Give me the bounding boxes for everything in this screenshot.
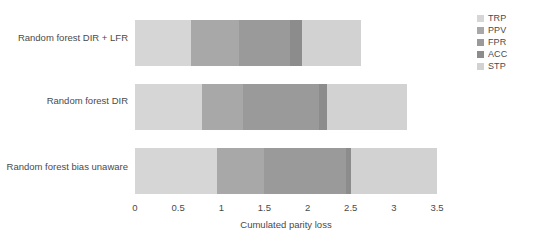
- y-axis-label-1: Random forest DIR: [0, 95, 128, 106]
- x-tick-label-3: 1.5: [258, 202, 271, 213]
- bar-segment-stp: [351, 148, 437, 194]
- legend-swatch-icon-acc: [477, 51, 484, 58]
- x-axis-title: Cumulated parity loss: [135, 219, 437, 230]
- bar-row-2: [135, 148, 437, 194]
- legend-swatch-icon-fpr: [477, 39, 484, 46]
- bar-row-0: [135, 20, 437, 66]
- bar-segment-trp: [135, 20, 191, 66]
- legend-label: FPR: [488, 37, 506, 48]
- legend-item-trp[interactable]: TRP: [477, 13, 507, 24]
- y-axis-label-0: Random forest DIR + LFR: [0, 32, 128, 43]
- x-axis: 00.511.522.533.5: [135, 202, 437, 216]
- plot-area: [135, 14, 437, 200]
- bar-segment-trp: [135, 148, 217, 194]
- x-tick-label-1: 0.5: [172, 202, 185, 213]
- stacked-bar-1: [135, 84, 407, 130]
- bar-segment-stp: [302, 20, 362, 66]
- legend-swatch-icon-trp: [477, 15, 484, 22]
- x-tick-label-6: 3: [391, 202, 396, 213]
- legend-label: TRP: [488, 13, 506, 24]
- bar-segment-acc: [290, 20, 301, 66]
- x-tick-label-7: 3.5: [430, 202, 443, 213]
- bar-row-1: [135, 84, 437, 130]
- legend-swatch-icon-ppv: [477, 27, 484, 34]
- legend: TRPPPVFPRACCSTP: [477, 13, 507, 72]
- legend-swatch-icon-stp: [477, 63, 484, 70]
- x-tick-label-4: 2: [305, 202, 310, 213]
- legend-item-stp[interactable]: STP: [477, 61, 507, 72]
- bar-segment-fpr: [239, 20, 291, 66]
- bar-segment-ppv: [217, 148, 264, 194]
- y-axis-label-2: Random forest bias unaware: [0, 161, 128, 172]
- legend-label: PPV: [488, 25, 506, 36]
- bar-segment-acc: [319, 84, 327, 130]
- legend-label: ACC: [488, 49, 507, 60]
- stacked-bar-0: [135, 20, 361, 66]
- bar-segment-fpr: [243, 84, 319, 130]
- legend-item-acc[interactable]: ACC: [477, 49, 507, 60]
- legend-item-fpr[interactable]: FPR: [477, 37, 507, 48]
- stacked-bar-2: [135, 148, 437, 194]
- bar-segment-ppv: [191, 20, 238, 66]
- legend-item-ppv[interactable]: PPV: [477, 25, 507, 36]
- bar-segment-trp: [135, 84, 202, 130]
- x-tick-label-0: 0: [132, 202, 137, 213]
- bar-segment-ppv: [202, 84, 243, 130]
- bar-segment-stp: [327, 84, 407, 130]
- stacked-bar-chart: Random forest DIR + LFR Random forest DI…: [0, 0, 535, 241]
- bar-segment-fpr: [264, 148, 346, 194]
- x-tick-label-5: 2.5: [344, 202, 357, 213]
- x-tick-label-2: 1: [219, 202, 224, 213]
- legend-label: STP: [488, 61, 506, 72]
